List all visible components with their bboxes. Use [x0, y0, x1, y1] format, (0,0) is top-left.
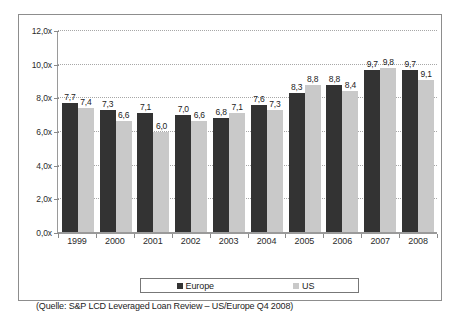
bar-chart: 0,0x2,0x4,0x6,0x8,0x10,0x12,0x 7,77,47,3…: [19, 15, 443, 260]
bar-value-label: 8,8: [329, 74, 340, 84]
bar-value-label: 9,7: [367, 59, 378, 69]
chart-legend: EuropeUS: [140, 278, 359, 293]
light-square-icon: [293, 283, 299, 289]
bar-europe-2006: 8,8: [326, 85, 342, 232]
bar-us-2000: 6,6: [116, 121, 132, 232]
x-axis-label-2007: 2007: [361, 236, 399, 246]
y-axis-label: 2,0x: [36, 194, 52, 204]
bar-group: 8,38,8: [286, 31, 324, 232]
bar-value-label: 8,8: [307, 74, 318, 84]
y-axis-label: 0,0x: [36, 228, 52, 238]
y-axis-label: 6,0x: [36, 127, 52, 137]
x-axis-label-2006: 2006: [323, 236, 361, 246]
bar-value-label: 6,6: [194, 110, 205, 120]
plot-wrapper: 0,0x2,0x4,0x6,0x8,0x10,0x12,0x 7,77,47,3…: [57, 31, 437, 234]
bar-groups: 7,77,47,36,67,16,07,06,66,87,17,67,38,38…: [59, 31, 437, 232]
legend-entry-europe[interactable]: Europe: [141, 281, 250, 291]
bar-value-label: 6,8: [215, 107, 226, 117]
y-axis-label: 12,0x: [32, 26, 52, 36]
bar-europe-2004: 7,6: [251, 105, 267, 232]
bar-value-label: 9,8: [383, 57, 394, 67]
bar-value-label: 9,7: [404, 59, 415, 69]
bar-value-label: 7,7: [64, 92, 75, 102]
bar-europe-2008: 9,7: [402, 70, 418, 232]
bar-us-2006: 8,4: [342, 91, 358, 232]
bar-value-label: 7,1: [231, 102, 242, 112]
x-axis-labels: 1999200020012002200320042005200620072008: [58, 236, 437, 246]
figure-frame: 0,0x2,0x4,0x6,0x8,0x10,0x12,0x 7,77,47,3…: [18, 14, 442, 301]
bar-us-2008: 9,1: [418, 80, 434, 232]
bar-group: 9,79,8: [361, 31, 399, 232]
x-axis-label-2000: 2000: [96, 236, 134, 246]
gridline: 0,0x: [58, 232, 437, 233]
bar-europe-1999: 7,7: [62, 103, 78, 232]
y-axis-label: 8,0x: [36, 93, 52, 103]
bar-europe-2007: 9,7: [364, 70, 380, 232]
bar-us-2002: 6,6: [191, 121, 207, 232]
bar-group: 7,36,6: [97, 31, 135, 232]
bar-value-label: 7,6: [253, 94, 264, 104]
bar-us-2001: 6,0: [153, 132, 169, 233]
bar-value-label: 7,0: [178, 104, 189, 114]
bar-group: 7,16,0: [135, 31, 173, 232]
bar-europe-2005: 8,3: [289, 93, 305, 232]
x-axis-label-2005: 2005: [285, 236, 323, 246]
x-axis-label-2002: 2002: [172, 236, 210, 246]
legend-label: Europe: [186, 281, 214, 291]
bar-europe-2001: 7,1: [137, 113, 153, 232]
bar-us-2007: 9,8: [380, 68, 396, 232]
x-axis-label-1999: 1999: [58, 236, 96, 246]
bar-us-2005: 8,8: [305, 85, 321, 232]
bar-value-label: 7,3: [102, 99, 113, 109]
x-axis-label-2004: 2004: [248, 236, 286, 246]
bar-group: 9,79,1: [399, 31, 437, 232]
bar-group: 7,77,4: [59, 31, 97, 232]
legend-entry-us[interactable]: US: [250, 281, 359, 291]
bar-value-label: 6,6: [118, 110, 129, 120]
x-axis-label-2008: 2008: [399, 236, 437, 246]
x-axis-label-2001: 2001: [134, 236, 172, 246]
bar-us-2004: 7,3: [267, 110, 283, 232]
source-note: (Quelle: S&P LCD Leveraged Loan Review –…: [36, 301, 293, 311]
legend-label: US: [302, 281, 314, 291]
bar-us-1999: 7,4: [78, 108, 94, 232]
bar-europe-2000: 7,3: [100, 110, 116, 232]
bar-group: 7,67,3: [248, 31, 286, 232]
bar-group: 8,88,4: [324, 31, 362, 232]
x-axis-label-2003: 2003: [210, 236, 248, 246]
plot-area: 0,0x2,0x4,0x6,0x8,0x10,0x12,0x 7,77,47,3…: [57, 31, 437, 234]
bar-value-label: 7,1: [140, 102, 151, 112]
bar-value-label: 7,4: [80, 97, 91, 107]
bar-europe-2003: 6,8: [213, 118, 229, 232]
bar-group: 7,06,6: [172, 31, 210, 232]
y-axis-label: 4,0x: [36, 161, 52, 171]
bar-us-2003: 7,1: [229, 113, 245, 232]
dark-square-icon: [177, 283, 183, 289]
bar-value-label: 7,3: [269, 99, 280, 109]
bar-value-label: 6,0: [156, 121, 167, 131]
bar-value-label: 8,4: [345, 80, 356, 90]
bar-value-label: 8,3: [291, 82, 302, 92]
bar-group: 6,87,1: [210, 31, 248, 232]
x-axis-tick: [437, 234, 438, 238]
bar-europe-2002: 7,0: [175, 115, 191, 232]
y-axis-label: 10,0x: [32, 60, 52, 70]
bar-value-label: 9,1: [420, 69, 431, 79]
